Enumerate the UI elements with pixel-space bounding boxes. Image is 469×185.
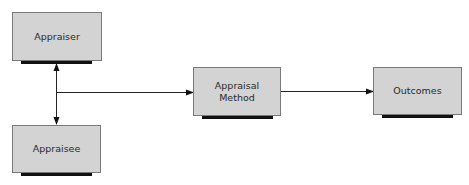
outcomes-label: Outcomes [393, 85, 441, 97]
appraiser-shadow [21, 61, 92, 64]
appraisee-shadow [21, 173, 92, 176]
method-label-line2: Method [219, 92, 255, 104]
method-label-line1: Appraisal [215, 80, 259, 92]
appraisee-box: Appraisee [12, 125, 101, 173]
outcomes-shadow [382, 115, 453, 118]
appraisal-method-box: Appraisal Method [193, 67, 281, 116]
method-shadow [202, 116, 273, 119]
outcomes-box: Outcomes [373, 67, 462, 115]
appraiser-box: Appraiser [12, 12, 102, 61]
appraiser-label: Appraiser [34, 31, 80, 43]
appraisee-label: Appraisee [33, 143, 81, 155]
